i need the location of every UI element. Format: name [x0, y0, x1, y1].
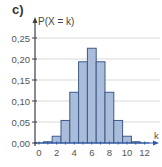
x-axis-label: k	[154, 130, 159, 141]
x-tick-label: 0	[36, 147, 41, 158]
bar	[114, 120, 123, 143]
x-tick-label: 4	[72, 147, 77, 158]
bar	[105, 92, 114, 143]
y-axis-arrow-icon	[33, 17, 38, 23]
x-tick-label: 6	[89, 147, 94, 158]
bar	[96, 62, 105, 143]
y-tick-label: 0,20	[12, 54, 31, 65]
y-tick-label: 0,00	[12, 138, 31, 149]
bar	[87, 48, 96, 143]
y-tick-label: 0,10	[12, 96, 31, 107]
y-ticks: 0,000,050,100,150,200,25	[12, 33, 38, 149]
x-axis-arrow-icon	[153, 141, 159, 146]
x-tick-label: 2	[54, 147, 59, 158]
y-tick-label: 0,05	[12, 117, 31, 128]
bar	[61, 120, 70, 143]
y-tick-label: 0,25	[12, 33, 31, 44]
x-tick-label: 10	[122, 147, 133, 158]
bars	[35, 48, 149, 143]
x-tick-label: 8	[107, 147, 112, 158]
y-tick-label: 0,15	[12, 75, 31, 86]
x-ticks: 024681012	[36, 142, 150, 159]
bar	[79, 62, 88, 143]
bar-chart: 0,000,050,100,150,200,25 024681012 k	[0, 0, 162, 167]
x-tick-label: 12	[139, 147, 150, 158]
bar	[70, 92, 79, 143]
